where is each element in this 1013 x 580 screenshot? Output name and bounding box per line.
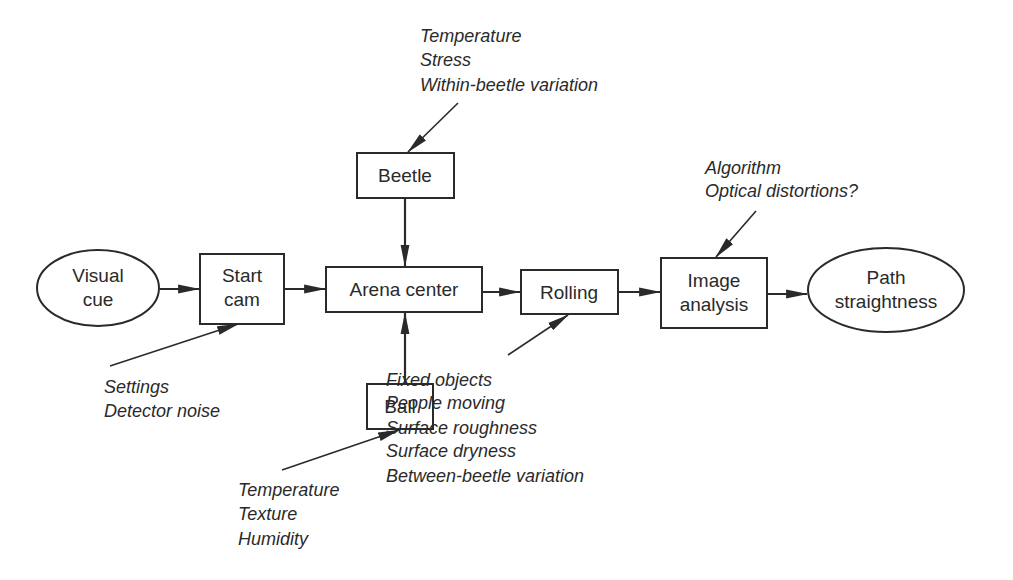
node-beetle: Beetle bbox=[357, 153, 454, 198]
note-rolling-item: Surface dryness bbox=[386, 441, 516, 461]
note-beetle: Temperature Stress Within-beetle variati… bbox=[420, 26, 598, 95]
node-path-straightness-line1: Path bbox=[866, 267, 905, 288]
note-ball-item: Texture bbox=[238, 504, 297, 524]
node-beetle-label: Beetle bbox=[378, 165, 432, 186]
note-start-cam: Settings Detector noise bbox=[104, 377, 220, 421]
note-ball: Temperature Texture Humidity bbox=[238, 480, 339, 549]
note-rolling-item: Surface roughness bbox=[386, 418, 537, 438]
flow-diagram: Visual cue Start cam Arena center Beetle… bbox=[0, 0, 1013, 580]
note-arrow-startcam bbox=[110, 324, 238, 366]
note-ball-item: Temperature bbox=[238, 480, 339, 500]
note-arrow-rolling bbox=[508, 315, 568, 355]
note-start-cam-item: Detector noise bbox=[104, 401, 220, 421]
note-rolling-item: Fixed objects bbox=[386, 370, 492, 390]
note-rolling-item: Between-beetle variation bbox=[386, 466, 584, 486]
node-visual-cue-line1: Visual bbox=[72, 265, 123, 286]
node-path-straightness: Path straightness bbox=[808, 248, 964, 332]
node-visual-cue: Visual cue bbox=[37, 250, 159, 326]
node-start-cam-line2: cam bbox=[224, 289, 260, 310]
note-image-analysis: Algorithm Optical distortions? bbox=[704, 158, 858, 201]
note-image-analysis-item: Algorithm bbox=[704, 158, 781, 178]
note-start-cam-item: Settings bbox=[104, 377, 169, 397]
node-visual-cue-line2: cue bbox=[83, 289, 114, 310]
note-image-analysis-item: Optical distortions? bbox=[705, 181, 858, 201]
node-rolling: Rolling bbox=[521, 270, 618, 314]
note-rolling-item: People moving bbox=[386, 393, 505, 413]
note-ball-item: Humidity bbox=[238, 529, 309, 549]
node-arena-center-label: Arena center bbox=[350, 279, 459, 300]
node-rolling-label: Rolling bbox=[540, 282, 598, 303]
note-rolling: Fixed objects People moving Surface roug… bbox=[386, 370, 584, 486]
node-path-straightness-line2: straightness bbox=[835, 291, 937, 312]
node-start-cam-line1: Start bbox=[222, 265, 263, 286]
note-arrow-imageanalysis bbox=[716, 211, 756, 257]
note-beetle-item: Within-beetle variation bbox=[420, 75, 598, 95]
node-image-analysis: Image analysis bbox=[661, 258, 767, 328]
node-start-cam: Start cam bbox=[200, 254, 284, 324]
node-image-analysis-line2: analysis bbox=[680, 294, 749, 315]
note-arrow-beetle bbox=[408, 103, 458, 152]
note-arrow-ball bbox=[282, 430, 399, 470]
note-beetle-item: Temperature bbox=[420, 26, 521, 46]
node-arena-center: Arena center bbox=[326, 267, 482, 312]
node-image-analysis-line1: Image bbox=[688, 270, 741, 291]
note-beetle-item: Stress bbox=[420, 50, 471, 70]
